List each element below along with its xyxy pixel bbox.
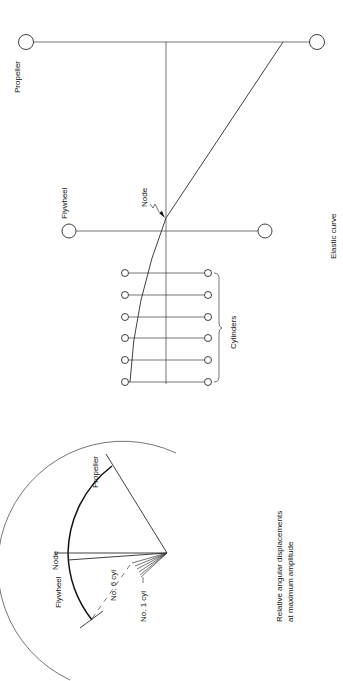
node-label: Node	[140, 187, 149, 207]
caption-line1: Relative angular displacements	[275, 511, 284, 622]
flywheel-disp-label: Flywheel	[54, 576, 63, 608]
cylinders-brace	[214, 273, 222, 382]
vibration-diagram: Propeller Flywheel Node Cylinders Elasti…	[0, 0, 343, 681]
node-arrowhead	[159, 211, 165, 218]
elastic-curve-caption: Elastic curve	[329, 213, 338, 259]
cylinder-radii	[132, 553, 167, 577]
cylinder-lines	[122, 270, 212, 386]
cylinders-label: Cylinders	[229, 316, 238, 349]
elastic-curve	[130, 42, 283, 382]
propeller-radius	[106, 454, 167, 553]
propeller-label: Propeller	[13, 61, 22, 93]
displacement-diagram	[0, 441, 176, 680]
flywheel-mass-left	[62, 224, 76, 238]
flywheel-arc	[68, 553, 92, 620]
propeller-mass-right	[310, 35, 325, 50]
cyl1-label: No. 1 cyl	[139, 591, 148, 622]
cyl6-label: No. 6 cyl	[109, 570, 118, 601]
node-arrow	[150, 204, 159, 212]
flywheel-tick	[80, 611, 103, 628]
flywheel-label: Flywheel	[60, 187, 69, 219]
flywheel-mass-right	[258, 224, 272, 238]
node-disp-label: Node	[51, 550, 60, 570]
propeller-mass-left	[19, 35, 34, 50]
propeller-arc	[68, 466, 112, 553]
caption-line2: at maximum amplitude	[286, 541, 295, 622]
displacement-circle	[0, 441, 176, 680]
propeller-disp-label: Propeller	[91, 456, 100, 488]
